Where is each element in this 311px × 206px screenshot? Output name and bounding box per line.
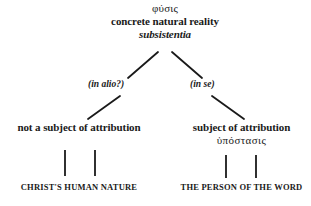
node-root-greek: φύσις xyxy=(60,2,270,15)
node-left-mid: not a subject of attribution xyxy=(0,121,158,134)
node-left-leaf: CHRIST'S HUMAN NATURE xyxy=(0,182,158,192)
node-right-mid: subject of attribution ὑπόστασις xyxy=(172,121,311,147)
edge-left-lower xyxy=(88,96,120,119)
edge-root-to-left-upper xyxy=(128,52,158,78)
node-right-leaf: THE PERSON OF THE WORD xyxy=(172,182,311,192)
node-right-mid-greek: ὑπόστασις xyxy=(172,134,311,147)
edge-label-in-alio: (in alio?) xyxy=(88,79,124,89)
node-left-mid-label: not a subject of attribution xyxy=(0,121,158,134)
diagram-canvas: φύσις concrete natural reality subsisten… xyxy=(0,0,311,206)
edge-root-to-right-upper xyxy=(172,52,202,78)
edge-label-in-se: (in se) xyxy=(190,79,215,89)
node-root: φύσις concrete natural reality subsisten… xyxy=(60,2,270,41)
edge-right-lower xyxy=(212,96,244,119)
node-root-gloss: concrete natural reality xyxy=(60,15,270,28)
node-right-mid-label: subject of attribution xyxy=(172,121,311,134)
node-root-latin: subsistentia xyxy=(60,28,270,41)
